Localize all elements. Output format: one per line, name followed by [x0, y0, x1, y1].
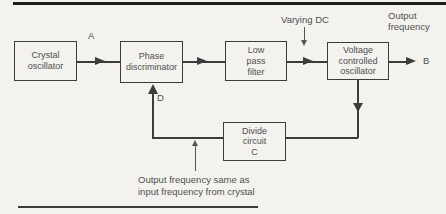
- connector-divide-to-feedback: [152, 137, 223, 139]
- label-b: B: [423, 55, 429, 66]
- arrowhead-vco-down: [353, 103, 363, 112]
- low-pass-filter-label-line3: filter: [247, 67, 264, 78]
- label-output-frequency-line2: frequency: [388, 21, 430, 32]
- low-pass-filter-label-line1: Low: [248, 45, 265, 56]
- label-varying-dc: Varying DC: [281, 14, 329, 25]
- low-pass-filter-box: Low pass filter: [225, 41, 287, 81]
- pll-block-diagram: Crystal oscillator Phase discriminator L…: [0, 0, 446, 214]
- divide-circuit-label-line3: C: [251, 147, 258, 158]
- arrowhead-vco-to-output: [406, 57, 416, 65]
- bottom-rule: [18, 206, 258, 208]
- note-text-line2: input frequency from crystal: [138, 186, 255, 197]
- voltage-controlled-oscillator-box: Voltage controlled oscillator: [327, 42, 389, 80]
- label-d: D: [157, 92, 164, 103]
- connector-feedback-up: [152, 92, 154, 138]
- divide-circuit-label-line1: Divide: [242, 126, 267, 137]
- vco-label-line1: Voltage: [343, 45, 373, 56]
- phase-discriminator-label-line1: Phase: [139, 51, 165, 62]
- note-text-line1: Output frequency same as: [138, 174, 249, 185]
- label-a: A: [88, 30, 94, 41]
- vco-label-line3: oscillator: [340, 66, 376, 77]
- label-output-frequency-line1: Output: [388, 10, 417, 21]
- connector-vco-to-output: [389, 61, 407, 63]
- connector-vco-to-divide: [286, 137, 358, 139]
- phase-discriminator-box: Phase discriminator: [120, 41, 183, 83]
- varying-dc-arrowhead: [301, 40, 307, 46]
- phase-discriminator-label-line2: discriminator: [126, 62, 177, 73]
- varying-dc-arrow-line: [304, 27, 305, 41]
- crystal-oscillator-box: Crystal oscillator: [14, 41, 77, 81]
- note-arrow-line: [195, 145, 196, 171]
- note-arrowhead: [192, 140, 198, 146]
- divide-circuit-label-line2: circuit: [243, 136, 267, 147]
- crystal-oscillator-label-line1: Crystal: [31, 50, 59, 61]
- vco-label-line2: controlled: [338, 56, 377, 67]
- arrowhead-lpf-to-vco: [303, 57, 313, 65]
- crystal-oscillator-label-line2: oscillator: [28, 61, 64, 72]
- arrowhead-crystal-to-phase: [95, 57, 105, 65]
- top-rule: [13, 2, 446, 5]
- divide-circuit-box: Divide circuit C: [223, 122, 286, 161]
- arrowhead-phase-to-lpf: [197, 57, 207, 65]
- low-pass-filter-label-line2: pass: [246, 56, 265, 67]
